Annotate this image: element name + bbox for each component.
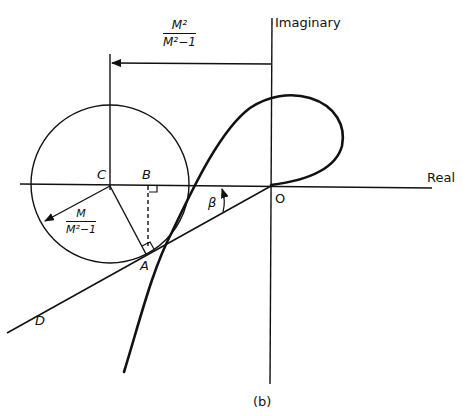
nyquist-curve (124, 95, 343, 372)
point-b-label: B (142, 167, 151, 182)
center-distance-denominator: M²−1 (163, 34, 196, 49)
center-distance-numerator: M² (163, 18, 196, 34)
center-distance-fraction: M² M²−1 (163, 18, 196, 49)
imaginary-axis (270, 18, 272, 384)
beta-angle-arc (222, 189, 224, 212)
right-angle-b (149, 186, 157, 192)
radius-numerator: M (66, 207, 96, 222)
tangent-line-od (7, 186, 271, 333)
imaginary-axis-label: Imaginary (275, 15, 341, 30)
point-a-label: A (140, 258, 149, 273)
point-d-label: D (35, 313, 45, 328)
center-distance-arrow (112, 63, 271, 64)
radius-fraction: M M²−1 (66, 207, 96, 236)
point-c-label: C (97, 167, 106, 182)
radius-denominator: M²−1 (66, 222, 96, 236)
figure-caption: (b) (253, 394, 271, 409)
real-axis-label: Real (427, 170, 455, 185)
origin-label: O (275, 191, 285, 206)
line-ca (110, 186, 146, 254)
real-axis (20, 184, 432, 188)
beta-angle-label: β (208, 195, 216, 210)
